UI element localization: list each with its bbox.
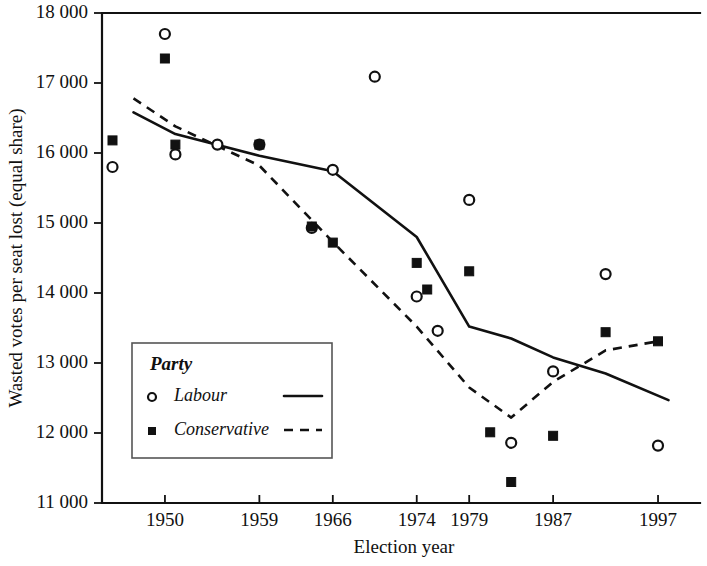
x-axis-title: Election year [354, 536, 455, 557]
x-tick-label: 1950 [146, 509, 184, 530]
legend-marker-conservative [149, 428, 156, 435]
data-point-labour [464, 195, 474, 205]
y-tick-label: 11 000 [36, 491, 88, 512]
x-tick-label: 1974 [398, 509, 437, 530]
x-tick-label: 1959 [240, 509, 278, 530]
data-point-conservative [412, 258, 421, 267]
chart-figure: 11 00012 00013 00014 00015 00016 00017 0… [0, 0, 707, 566]
data-point-labour [212, 140, 222, 150]
y-tick-label: 13 000 [36, 351, 88, 372]
data-point-labour [412, 292, 422, 302]
data-point-conservative [423, 285, 432, 294]
data-point-conservative [255, 140, 264, 149]
data-point-labour [506, 438, 516, 448]
data-point-conservative [507, 478, 516, 487]
plot-background [0, 0, 707, 566]
data-point-conservative [486, 428, 495, 437]
y-axis-title: Wasted votes per seat lost (equal share) [5, 108, 27, 407]
legend-label-conservative: Conservative [174, 419, 269, 439]
data-point-conservative [160, 54, 169, 63]
data-point-labour [548, 366, 558, 376]
y-tick-label: 17 000 [36, 71, 88, 92]
wasted-votes-scatter-chart: 11 00012 00013 00014 00015 00016 00017 0… [0, 0, 707, 566]
y-tick-label: 15 000 [36, 211, 88, 232]
legend-marker-labour [148, 393, 156, 401]
x-tick-label: 1997 [639, 509, 677, 530]
data-point-labour [370, 72, 380, 82]
legend-label-labour: Labour [173, 385, 228, 405]
y-tick-label: 18 000 [36, 1, 88, 22]
y-tick-label: 16 000 [36, 141, 88, 162]
data-point-labour [328, 165, 338, 175]
data-point-conservative [108, 136, 117, 145]
data-point-labour [108, 162, 118, 172]
data-point-labour [601, 269, 611, 279]
data-point-labour [653, 441, 663, 451]
data-point-labour [433, 326, 443, 336]
data-point-conservative [171, 140, 180, 149]
data-point-conservative [328, 238, 337, 247]
legend-title: Party [149, 353, 193, 374]
data-point-conservative [465, 267, 474, 276]
data-point-conservative [654, 337, 663, 346]
legend: PartyLabourConservative [132, 343, 332, 458]
y-tick-label: 14 000 [36, 281, 88, 302]
x-tick-label: 1987 [534, 509, 572, 530]
x-tick-label: 1966 [314, 509, 352, 530]
data-point-labour [160, 29, 170, 39]
x-tick-label: 1979 [450, 509, 488, 530]
y-tick-label: 12 000 [36, 421, 88, 442]
data-point-conservative [601, 328, 610, 337]
data-point-conservative [307, 222, 316, 231]
data-point-conservative [549, 431, 558, 440]
data-point-labour [170, 149, 180, 159]
